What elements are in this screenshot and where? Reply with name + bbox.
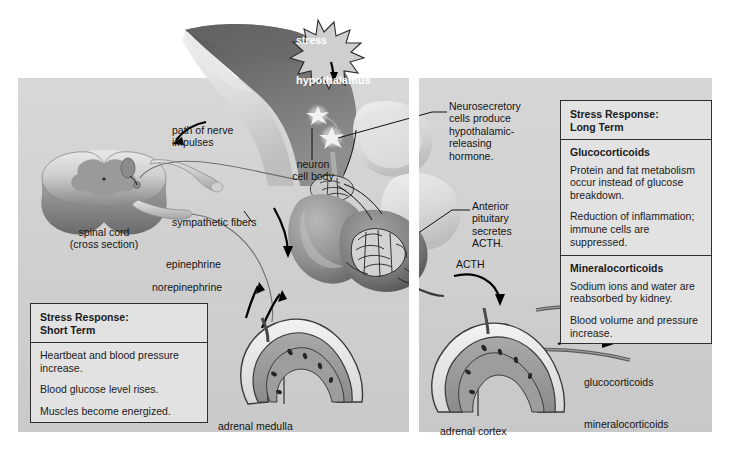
label-adrenal-medulla: adrenal medulla	[218, 420, 293, 432]
mineralocorticoids-subtitle: Mineralocorticoids	[570, 262, 702, 275]
short-term-body: Heartbeat and blood pressure increase. B…	[31, 343, 207, 424]
glucocorticoids-line-1: Protein and fat metabolism occur instead…	[570, 164, 702, 202]
short-term-line-2: Blood glucose level rises.	[40, 383, 198, 396]
label-stress: stress	[296, 34, 327, 46]
long-term-section-glucocorticoids: Glucocorticoids Protein and fat metaboli…	[561, 140, 711, 255]
label-epinephrine: epinephrine	[166, 258, 221, 270]
short-term-line-1: Heartbeat and blood pressure increase.	[40, 349, 198, 374]
label-acth: ACTH	[456, 258, 485, 270]
mineralocorticoids-line-1: Sodium ions and water are reabsorbed by …	[570, 280, 702, 305]
label-sympathetic-fibers: sympathetic fibers	[172, 216, 257, 228]
mineralocorticoids-line-2: Blood volume and pressure increase.	[570, 314, 702, 339]
label-mineralocorticoids-output: mineralocorticoids	[584, 418, 669, 430]
label-path-of-nerve-impulses: path of nerve impulses	[172, 124, 233, 149]
diagram-canvas: stress hypothalamus Neurosecretory cells…	[0, 0, 730, 451]
long-term-header: Stress Response: Long Term	[561, 101, 711, 140]
glucocorticoids-line-2: Reduction of inflammation; immune cells …	[570, 210, 702, 248]
label-norepinephrine: norepinephrine	[152, 281, 222, 293]
label-neuron-cell-body: neuron cell body	[282, 158, 344, 183]
label-spinal-cord: spinal cord (cross section)	[52, 226, 156, 251]
short-term-header: Stress Response: Short Term	[31, 304, 207, 343]
glucocorticoids-subtitle: Glucocorticoids	[570, 146, 702, 159]
label-neurosecretory-cells: Neurosecretory cells produce hypothalami…	[449, 100, 521, 162]
short-term-line-3: Muscles become energized.	[40, 405, 198, 418]
label-glucocorticoids-output: glucocorticoids	[584, 376, 653, 388]
label-adrenal-cortex: adrenal cortex	[440, 425, 507, 437]
label-anterior-pituitary: Anterior pituitary secretes ACTH.	[472, 200, 512, 250]
adrenal-medulla-section	[241, 318, 363, 404]
stress-response-short-term-box: Stress Response: Short Term Heartbeat an…	[30, 303, 208, 423]
adrenal-cortex-section	[432, 308, 565, 412]
label-hypothalamus: hypothalamus	[296, 74, 371, 86]
stress-response-long-term-box: Stress Response: Long Term Glucocorticoi…	[560, 100, 712, 344]
long-term-section-mineralocorticoids: Mineralocorticoids Sodium ions and water…	[561, 255, 711, 346]
